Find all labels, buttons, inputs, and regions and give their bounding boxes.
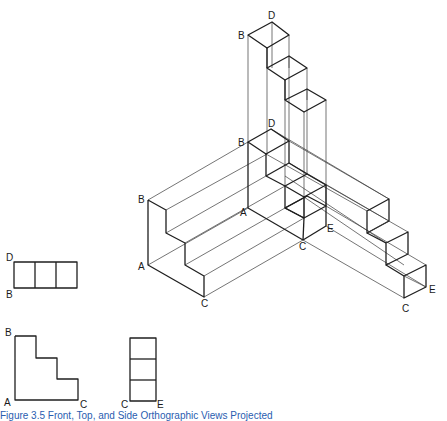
label-left-A: A [138,261,145,272]
front-view: B A C [4,327,87,410]
front-view-label-C: C [80,399,87,410]
side-view-label-E: E [157,399,164,410]
vertical-projection-lines [248,22,326,218]
left-projection-lines [148,142,304,297]
central-isometric-block [248,129,326,240]
top-view-label-D: D [6,252,13,263]
side-view: C E [121,338,164,410]
label-mid-B: B [238,137,245,148]
label-right-C: C [402,303,409,314]
side-view-label-C: C [121,399,128,410]
front-view-label-A: A [4,397,11,408]
label-mid-E: E [327,223,334,234]
top-view-label-B: B [6,289,13,300]
label-left-B: B [138,194,145,205]
label-mid-C: C [299,241,306,252]
right-projection-lines [266,129,426,298]
label-mid-D: D [268,118,275,129]
figure-caption: Figure 3.5 Front, Top, and Side Orthogra… [0,410,273,421]
label-top-B: B [238,30,245,41]
label-left-C: C [201,298,208,309]
label-mid-A: A [240,207,247,218]
top-view: D B [6,252,77,300]
front-stair-profile [148,200,204,297]
projected-top-view [248,22,326,112]
label-right-E: E [429,284,436,295]
front-view-label-B: B [5,327,12,338]
label-top-D: D [268,10,275,21]
